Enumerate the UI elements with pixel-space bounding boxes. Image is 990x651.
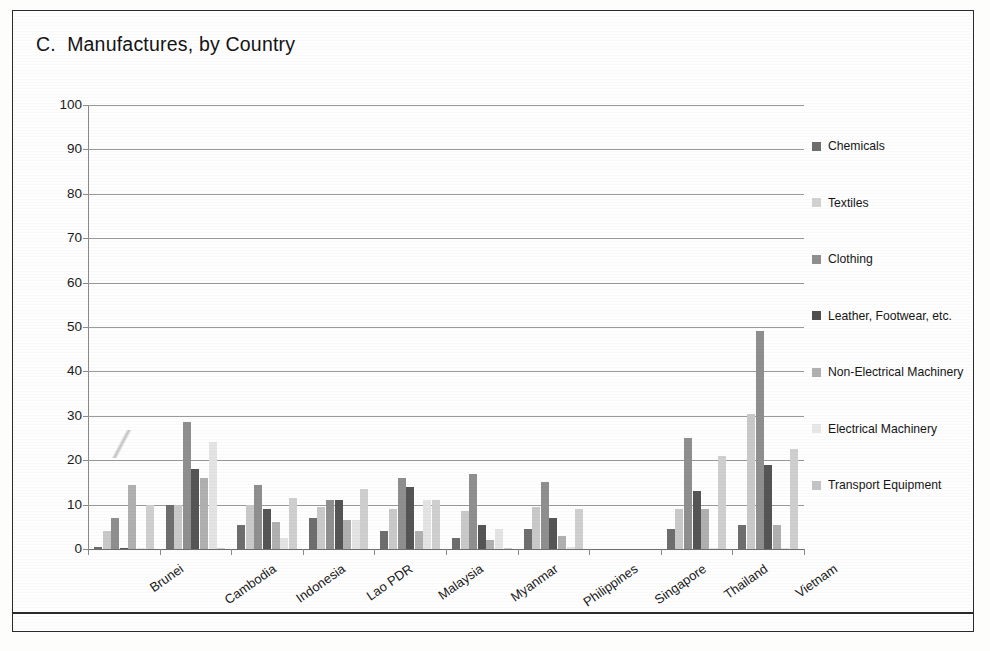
bar bbox=[486, 540, 494, 549]
bar bbox=[461, 511, 469, 549]
legend-item[interactable]: Leather, Footwear, etc. bbox=[812, 310, 952, 322]
y-axis-tick-label: 80 bbox=[42, 187, 82, 201]
legend-item[interactable]: Clothing bbox=[812, 253, 873, 265]
legend-swatch-icon bbox=[812, 481, 821, 490]
x-axis-tick-label: Brunei bbox=[146, 561, 185, 595]
bar bbox=[352, 520, 360, 549]
x-axis-tick-label: Myanmar bbox=[507, 561, 560, 604]
x-axis-tick-label: Philippines bbox=[581, 561, 641, 609]
bar bbox=[343, 520, 351, 549]
bar bbox=[406, 487, 414, 549]
bar bbox=[380, 531, 388, 549]
legend-item[interactable]: Textiles bbox=[812, 197, 869, 209]
y-axis-tick-label: 40 bbox=[42, 364, 82, 378]
legend-swatch-icon bbox=[812, 368, 821, 377]
x-axis-tick-label: Lao PDR bbox=[364, 561, 416, 604]
bar bbox=[469, 474, 477, 549]
legend-item-label: Textiles bbox=[828, 197, 869, 209]
bar bbox=[478, 525, 486, 549]
x-axis-labels: BruneiCambodiaIndonesiaLao PDRMalaysiaMy… bbox=[88, 549, 804, 629]
bar bbox=[756, 331, 764, 549]
legend-item[interactable]: Transport Equipment bbox=[812, 479, 941, 491]
bar-group bbox=[374, 105, 446, 549]
bar bbox=[675, 509, 683, 549]
bar bbox=[532, 507, 540, 549]
bar bbox=[174, 505, 182, 549]
legend-swatch-icon bbox=[812, 311, 821, 320]
bar bbox=[263, 509, 271, 549]
bar-group bbox=[303, 105, 375, 549]
bar bbox=[452, 538, 460, 549]
legend-item-label: Electrical Machinery bbox=[828, 423, 937, 435]
bar bbox=[389, 509, 397, 549]
bar bbox=[200, 478, 208, 549]
bar bbox=[166, 505, 174, 549]
bar bbox=[415, 531, 423, 549]
bar bbox=[246, 505, 254, 549]
bar bbox=[191, 469, 199, 549]
bar bbox=[280, 538, 288, 549]
bar bbox=[747, 414, 755, 549]
bar bbox=[701, 509, 709, 549]
bar bbox=[237, 525, 245, 549]
bar bbox=[335, 500, 343, 549]
bar bbox=[272, 522, 280, 549]
bar bbox=[693, 491, 701, 549]
y-axis-tick-label: 60 bbox=[42, 276, 82, 290]
y-axis-tick-label: 0 bbox=[42, 542, 82, 556]
bar-group bbox=[661, 105, 733, 549]
legend-item[interactable]: Electrical Machinery bbox=[812, 423, 937, 435]
x-tick bbox=[804, 549, 805, 555]
legend-swatch-icon bbox=[812, 198, 821, 207]
bar bbox=[103, 531, 111, 549]
bar-group bbox=[446, 105, 518, 549]
bar bbox=[289, 498, 297, 549]
bar-group bbox=[160, 105, 232, 549]
bar-group bbox=[231, 105, 303, 549]
bar bbox=[541, 482, 549, 549]
legend-swatch-icon bbox=[812, 424, 821, 433]
bar bbox=[524, 529, 532, 549]
y-axis-tick-label: 10 bbox=[42, 498, 82, 512]
chart-page: C. Manufactures, by Country 010203040506… bbox=[0, 0, 990, 651]
y-axis-tick-label: 30 bbox=[42, 409, 82, 423]
bar bbox=[326, 500, 334, 549]
legend-item-label: Chemicals bbox=[828, 140, 885, 152]
bar bbox=[667, 529, 675, 549]
bar-group bbox=[88, 105, 160, 549]
bar bbox=[495, 529, 503, 549]
x-axis-tick-label: Malaysia bbox=[435, 561, 486, 603]
legend-item[interactable]: Non-Electrical Machinery bbox=[812, 366, 963, 378]
x-axis-tick-label: Indonesia bbox=[293, 561, 348, 606]
legend-swatch-icon bbox=[812, 255, 821, 264]
bar-group bbox=[518, 105, 590, 549]
y-axis-tick-label: 20 bbox=[42, 453, 82, 467]
bar bbox=[254, 485, 262, 549]
legend-item-label: Clothing bbox=[828, 253, 873, 265]
bar bbox=[684, 438, 692, 549]
legend-item[interactable]: Chemicals bbox=[812, 140, 885, 152]
bar-group bbox=[732, 105, 804, 549]
legend-swatch-icon bbox=[812, 142, 821, 151]
chart-title: C. Manufactures, by Country bbox=[36, 33, 295, 56]
bar bbox=[738, 525, 746, 549]
x-axis-tick-label: Singapore bbox=[651, 561, 708, 607]
y-axis-tick-label: 50 bbox=[42, 320, 82, 334]
bar bbox=[128, 485, 136, 549]
bar bbox=[146, 505, 154, 549]
bar bbox=[773, 525, 781, 549]
legend-item-label: Leather, Footwear, etc. bbox=[828, 310, 952, 322]
x-axis-tick-label: Thailand bbox=[721, 561, 770, 602]
legend-item-label: Non-Electrical Machinery bbox=[828, 366, 963, 378]
y-axis-tick-label: 70 bbox=[42, 231, 82, 245]
bar bbox=[423, 500, 431, 549]
bar bbox=[718, 456, 726, 549]
y-axis-labels: 0102030405060708090100 bbox=[40, 105, 82, 549]
bar bbox=[398, 478, 406, 549]
bar bbox=[360, 489, 368, 549]
legend-item-label: Transport Equipment bbox=[828, 479, 941, 491]
bar bbox=[790, 449, 798, 549]
x-axis-tick-label: Cambodia bbox=[222, 561, 279, 607]
bar-group bbox=[589, 105, 661, 549]
bar bbox=[575, 509, 583, 549]
